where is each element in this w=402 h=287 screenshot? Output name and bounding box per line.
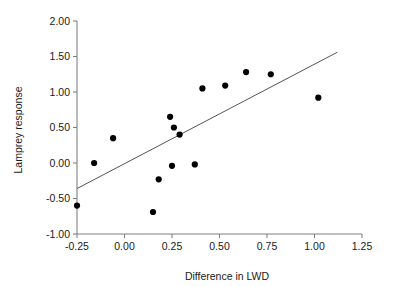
y-tick-label: 1.50 — [50, 50, 71, 62]
trend-line — [77, 52, 337, 188]
data-point — [110, 135, 116, 141]
data-point — [150, 209, 156, 215]
y-axis-title: Lamprey response — [12, 86, 24, 173]
data-points — [74, 69, 322, 215]
data-point — [199, 85, 205, 91]
x-tick-label: 0.25 — [162, 240, 183, 252]
chart-canvas: -1.00-0.500.000.501.001.502.00 -0.250.00… — [0, 0, 402, 287]
y-tick-label: -0.50 — [46, 192, 70, 204]
x-tick-label: 1.25 — [352, 240, 373, 252]
x-axis-title: Difference in LWD — [185, 270, 270, 282]
x-tick-label: 0.75 — [257, 240, 278, 252]
y-tick-label: 2.00 — [50, 15, 71, 27]
y-tick-label: 0.50 — [50, 121, 71, 133]
data-point — [315, 95, 321, 101]
x-tick-label: 0.00 — [114, 240, 135, 252]
x-tick-label: 0.50 — [209, 240, 230, 252]
data-point — [156, 176, 162, 182]
x-axis: -0.250.000.250.500.751.001.25 — [65, 234, 372, 252]
y-tick-label: -1.00 — [46, 228, 70, 240]
y-tick-label: 1.00 — [50, 86, 71, 98]
scatter-plot-figure: -1.00-0.500.000.501.001.502.00 -0.250.00… — [0, 0, 402, 287]
data-point — [177, 132, 183, 138]
y-tick-label: 0.00 — [50, 157, 71, 169]
data-point — [171, 124, 177, 130]
data-point — [91, 160, 97, 166]
regression-line — [77, 52, 337, 188]
x-tick-label: -0.25 — [65, 240, 89, 252]
y-axis: -1.00-0.500.000.501.001.502.00 — [46, 15, 77, 240]
data-point — [222, 83, 228, 89]
data-point — [169, 163, 175, 169]
data-point — [167, 114, 173, 120]
data-point — [192, 161, 198, 167]
data-point — [268, 71, 274, 77]
data-point — [74, 203, 80, 209]
x-tick-label: 1.00 — [304, 240, 325, 252]
data-point — [243, 69, 249, 75]
